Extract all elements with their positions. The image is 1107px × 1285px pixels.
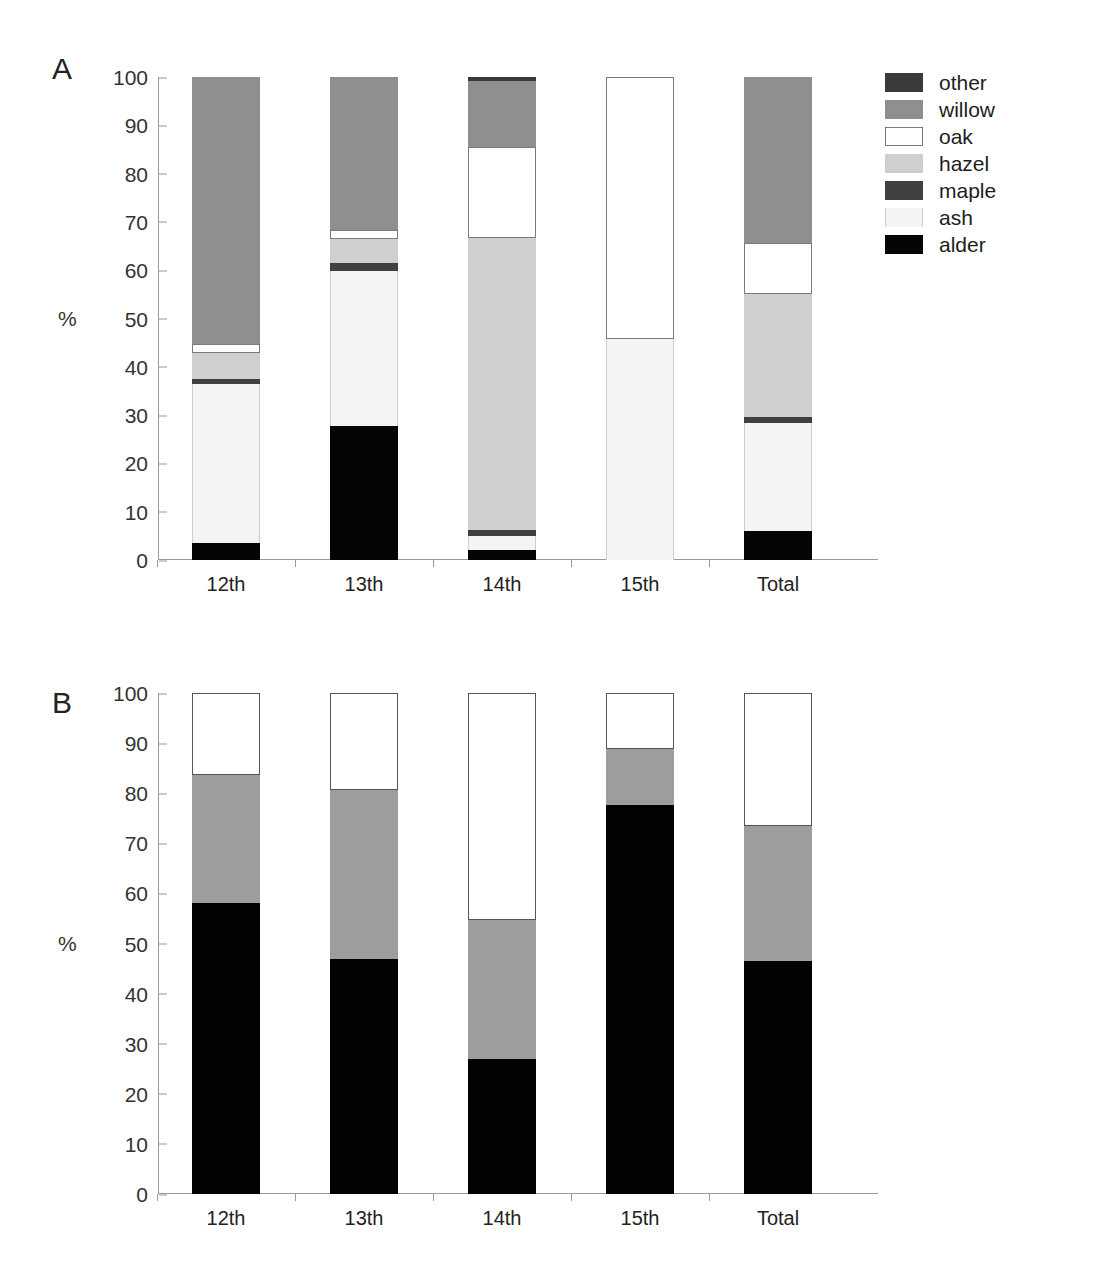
legend-item-hazel[interactable]: hazel — [885, 151, 996, 176]
y-tick-a-0: 0 — [96, 550, 158, 571]
y-tick-label: 0 — [96, 1184, 158, 1205]
y-tick-a-50: 50 — [96, 308, 158, 329]
x-axis-label-total: Total — [757, 1207, 799, 1230]
plot-area-b: % 010203040506070809010012th13th14th15th… — [158, 693, 848, 1194]
y-tick-mark — [159, 743, 167, 744]
legend-item-willow[interactable]: willow — [885, 97, 996, 122]
y-tick-label: 50 — [96, 308, 158, 329]
x-tick-mark — [295, 1194, 296, 1201]
bar-segment-autumn[interactable] — [744, 961, 812, 1194]
y-tick-label: 70 — [96, 833, 158, 854]
bar-15th[interactable] — [606, 77, 674, 560]
bar-segment-maple[interactable] — [744, 417, 812, 423]
y-tick-label: 80 — [96, 783, 158, 804]
bar-segment-spring[interactable] — [606, 749, 674, 805]
bar-segment-oak[interactable] — [330, 230, 398, 239]
legend-item-ash[interactable]: ash — [885, 205, 996, 230]
y-tick-label: 40 — [96, 356, 158, 377]
bar-segment-maple[interactable] — [330, 263, 398, 271]
y-tick-b-80: 80 — [96, 783, 158, 804]
bar-segment-autumn[interactable] — [468, 1059, 536, 1194]
bar-total[interactable] — [744, 693, 812, 1194]
bar-14th[interactable] — [468, 77, 536, 560]
legend-item-alder[interactable]: alder — [885, 232, 996, 257]
bar-segment-ash[interactable] — [192, 384, 260, 543]
bar-segment-summer[interactable] — [330, 693, 398, 790]
bar-segment-alder[interactable] — [330, 426, 398, 560]
y-tick-b-0: 0 — [96, 1184, 158, 1205]
bar-segment-summer[interactable] — [192, 693, 260, 775]
x-tick-mark — [157, 1194, 158, 1201]
y-tick-b-50: 50 — [96, 933, 158, 954]
bar-segment-autumn[interactable] — [606, 805, 674, 1194]
bar-segment-spring[interactable] — [468, 920, 536, 1058]
legend-item-other[interactable]: other — [885, 70, 996, 95]
bar-segment-autumn[interactable] — [192, 903, 260, 1194]
legend-label-ash: ash — [939, 207, 973, 228]
bar-segment-ash[interactable] — [606, 339, 674, 560]
bar-total[interactable] — [744, 77, 812, 560]
bar-segment-willow[interactable] — [330, 77, 398, 230]
y-tick-mark — [159, 463, 167, 464]
y-tick-label: 50 — [96, 933, 158, 954]
y-tick-b-30: 30 — [96, 1033, 158, 1054]
bar-segment-alder[interactable] — [744, 531, 812, 560]
legend-swatch-other-icon — [885, 73, 923, 92]
bar-12th[interactable] — [192, 693, 260, 1194]
bar-segment-maple[interactable] — [192, 379, 260, 384]
y-tick-label: 90 — [96, 733, 158, 754]
y-tick-mark — [159, 893, 167, 894]
bar-13th[interactable] — [330, 77, 398, 560]
bar-segment-ash[interactable] — [744, 423, 812, 531]
bar-segment-oak[interactable] — [192, 344, 260, 354]
bar-segment-alder[interactable] — [468, 550, 536, 560]
y-tick-mark — [159, 77, 167, 78]
bar-segment-spring[interactable] — [744, 826, 812, 961]
x-axis-label-13th: 13th — [345, 1207, 384, 1230]
bar-segment-summer[interactable] — [744, 693, 812, 826]
bar-segment-willow[interactable] — [192, 77, 260, 344]
bar-segment-oak[interactable] — [744, 243, 812, 295]
bar-segment-ash[interactable] — [468, 536, 536, 550]
bar-segment-willow[interactable] — [744, 77, 812, 243]
bar-segment-spring[interactable] — [192, 775, 260, 904]
bar-14th[interactable] — [468, 693, 536, 1194]
bar-segment-hazel[interactable] — [192, 353, 260, 379]
bar-segment-willow[interactable] — [468, 81, 536, 147]
bar-segment-other[interactable] — [468, 77, 536, 81]
y-tick-b-90: 90 — [96, 733, 158, 754]
y-tick-a-30: 30 — [96, 405, 158, 426]
legend-item-maple[interactable]: maple — [885, 178, 996, 203]
legend-swatch-maple-icon — [885, 181, 923, 200]
bar-segment-ash[interactable] — [330, 271, 398, 426]
bar-segment-oak[interactable] — [468, 147, 536, 238]
y-tick-label: 100 — [96, 683, 158, 704]
bar-segment-summer[interactable] — [468, 693, 536, 920]
y-tick-mark — [159, 944, 167, 945]
x-axis-label-15th: 15th — [621, 1207, 660, 1230]
y-tick-mark — [159, 1194, 167, 1195]
x-tick-mark — [709, 1194, 710, 1201]
bar-segment-maple[interactable] — [468, 530, 536, 536]
bar-segment-hazel[interactable] — [744, 294, 812, 417]
y-tick-label: 70 — [96, 211, 158, 232]
legend-label-other: other — [939, 72, 987, 93]
bar-segment-autumn[interactable] — [330, 959, 398, 1194]
bar-segment-hazel[interactable] — [330, 239, 398, 263]
bar-segment-summer[interactable] — [606, 693, 674, 749]
panel-a-letter: A — [52, 54, 72, 84]
bar-segment-hazel[interactable] — [468, 238, 536, 530]
legend-swatch-willow-icon — [885, 100, 923, 119]
y-tick-mark — [159, 222, 167, 223]
bar-13th[interactable] — [330, 693, 398, 1194]
legend-item-oak[interactable]: oak — [885, 124, 996, 149]
legend-swatch-ash-icon — [885, 208, 923, 227]
bar-segment-spring[interactable] — [330, 790, 398, 959]
bar-15th[interactable] — [606, 693, 674, 1194]
bar-segment-alder[interactable] — [192, 543, 260, 560]
bar-segment-oak[interactable] — [606, 77, 674, 339]
y-tick-mark — [159, 512, 167, 513]
bar-12th[interactable] — [192, 77, 260, 560]
y-tick-label: 20 — [96, 1083, 158, 1104]
y-tick-mark — [159, 319, 167, 320]
